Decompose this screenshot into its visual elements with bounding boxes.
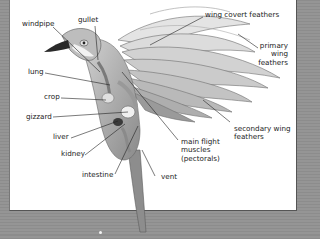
beak — [44, 40, 70, 52]
label-vent: vent — [161, 173, 177, 181]
label-intestine: intestine — [82, 171, 113, 179]
highlight-dot — [99, 231, 102, 234]
label-secondary-wing-feathers: secondary wing feathers — [234, 125, 291, 142]
label-lung: lung — [28, 68, 44, 76]
label-main-flight-muscles: main flight muscles (pectorals) — [181, 138, 220, 163]
label-windpipe: windpipe — [22, 20, 55, 28]
label-wing-covert-feathers: wing covert feathers — [205, 11, 279, 19]
label-liver: liver — [53, 133, 69, 141]
tail — [128, 150, 146, 232]
label-gullet: gullet — [78, 16, 98, 24]
label-gizzard: gizzard — [26, 113, 52, 121]
label-crop: crop — [44, 93, 60, 101]
label-kidney: kidney — [61, 150, 85, 158]
label-primary-wing-feathers: primary wing feathers — [252, 42, 288, 67]
